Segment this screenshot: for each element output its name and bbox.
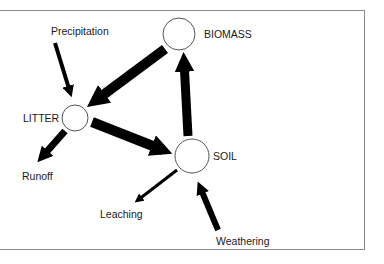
arrow-soil-to-biomass <box>184 61 188 136</box>
flow-label-weathering: Weathering <box>216 236 270 247</box>
arrow-leaching <box>138 170 177 200</box>
arrow-runoff <box>42 131 65 157</box>
flow-diagram <box>0 0 384 264</box>
node-soil <box>175 139 209 173</box>
node-label-soil: SOIL <box>213 151 237 162</box>
arrow-precipitation <box>55 43 70 92</box>
flow-label-leaching: Leaching <box>100 209 143 220</box>
flow-label-runoff: Runoff <box>22 171 53 182</box>
arrow-weathering <box>200 187 218 230</box>
arrow-biomass-to-litter <box>95 49 165 101</box>
node-label-biomass: BIOMASS <box>204 29 252 40</box>
arrow-litter-to-soil <box>92 122 163 150</box>
node-biomass <box>163 18 195 50</box>
node-label-litter: LITTER <box>23 113 59 124</box>
node-litter <box>62 105 88 131</box>
flow-label-precipitation: Precipitation <box>51 26 109 37</box>
